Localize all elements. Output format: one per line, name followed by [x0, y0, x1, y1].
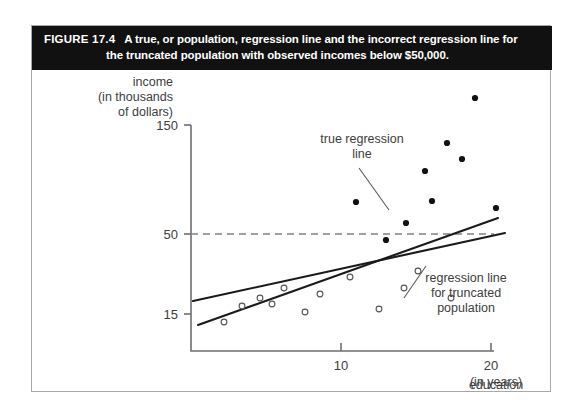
y-axis-subtitle-2: of dollars): [118, 105, 173, 119]
data-point: [281, 285, 287, 291]
data-point: [493, 205, 499, 211]
data-point: [317, 291, 323, 297]
plot-area: 150 50 15 10 20 income (in thousands of …: [32, 70, 552, 392]
data-point: [376, 306, 382, 312]
ytick-label-150: 150: [156, 118, 178, 133]
ytick-label-50: 50: [164, 227, 178, 242]
x-axis-subtitle: (in years): [436, 375, 556, 389]
data-point: [347, 274, 353, 280]
figure-number: FIGURE 17.4: [44, 33, 115, 45]
annotation-true-line-1: true regression: [320, 132, 403, 146]
caption-text-1: A true, or population, regression line a…: [124, 33, 517, 45]
data-point: [472, 95, 478, 101]
annotation-trunc-line-2: for truncated: [431, 286, 501, 300]
data-point: [429, 198, 435, 204]
axis-lines: [191, 125, 494, 351]
annotation-true-line-2: line: [352, 147, 372, 161]
data-point: [401, 285, 407, 291]
data-point: [257, 295, 263, 301]
figure-container: FIGURE 17.4A true, or population, regres…: [31, 25, 551, 392]
data-point: [383, 237, 389, 243]
xtick-label-10: 10: [334, 358, 348, 373]
data-point: [444, 140, 450, 146]
annotation-trunc-line-1: regression line: [425, 271, 506, 285]
regression-scatter-chart: 150 50 15 10 20 income (in thousands of …: [32, 70, 552, 392]
true-line-leader: [359, 168, 389, 210]
data-point: [422, 168, 428, 174]
filled-data-points: [353, 95, 499, 243]
ytick-label-15: 15: [164, 307, 178, 322]
caption-line-2: the truncated population with observed i…: [44, 47, 542, 63]
data-point: [269, 301, 275, 307]
xtick-label-20: 20: [484, 358, 498, 373]
figure-caption-bar: FIGURE 17.4A true, or population, regres…: [32, 26, 552, 70]
annotation-trunc-line-3: population: [437, 301, 495, 315]
data-point: [239, 303, 245, 309]
data-point: [353, 199, 359, 205]
y-axis-subtitle-1: (in thousands: [98, 90, 173, 104]
data-point: [221, 319, 227, 325]
data-point: [302, 309, 308, 315]
data-point: [459, 156, 465, 162]
caption-line-1: FIGURE 17.4A true, or population, regres…: [44, 31, 542, 47]
data-point: [403, 220, 409, 226]
data-point: [415, 268, 421, 274]
y-axis-title: income: [133, 75, 173, 89]
